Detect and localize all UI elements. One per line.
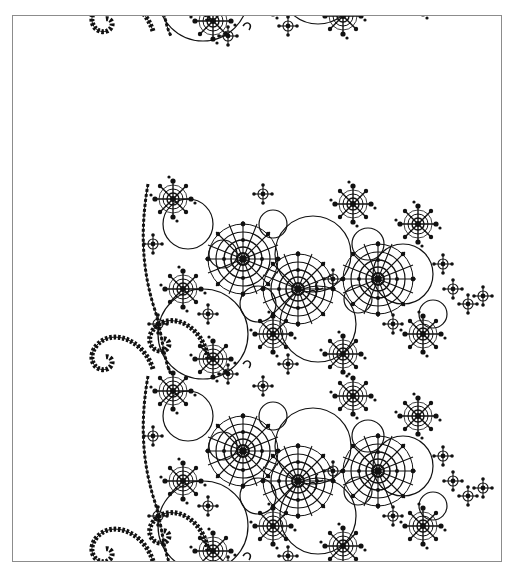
fractal-tier-bottom <box>92 367 494 562</box>
fractal-tier-top <box>92 16 494 47</box>
fractal-tier-middle <box>92 175 494 384</box>
fractal-illustration <box>13 16 502 562</box>
fractal-figure <box>12 15 502 562</box>
running-head <box>0 0 514 12</box>
